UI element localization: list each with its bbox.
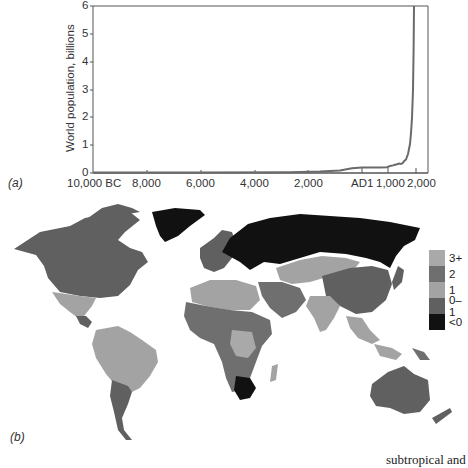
legend-swatch: [429, 282, 445, 298]
region-south-america-north: [92, 326, 158, 394]
legend-item-2: 2: [429, 266, 468, 282]
legend-item-3plus: 3+: [429, 250, 468, 266]
legend-swatch: [429, 298, 445, 314]
cutoff-caption-text: subtropical and: [386, 452, 466, 468]
legend-swatch: [429, 314, 445, 330]
region-middle-east: [258, 282, 306, 318]
legend-swatch: [429, 266, 445, 282]
region-india: [306, 296, 340, 332]
region-southern-africa: [234, 376, 256, 400]
region-sub-saharan-africa: [184, 302, 272, 392]
legend-item-0-1: 0–1: [429, 298, 468, 314]
legend-label: 2: [449, 268, 455, 280]
region-north-america: [14, 212, 148, 298]
panel-b-label: (b): [10, 430, 25, 444]
region-greenland: [152, 208, 205, 242]
legend-label: 3+: [449, 252, 462, 264]
region-south-america-south: [110, 380, 132, 440]
region-southeast-asia: [346, 316, 380, 344]
legend-label: 0–1: [449, 294, 468, 318]
region-australia: [370, 366, 430, 414]
map-legend: 3+ 2 1 0–1 <0: [429, 250, 468, 330]
legend-label: <0: [449, 316, 462, 328]
legend-swatch: [429, 250, 445, 266]
